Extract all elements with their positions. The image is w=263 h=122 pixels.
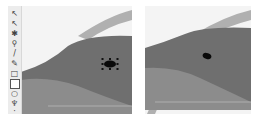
canvas-before[interactable]: ↖ ↖ ✱ ⚲ / ✎ □ ○ ♆ ·	[8, 6, 132, 114]
tools-panel: ↖ ↖ ✱ ⚲ / ✎ □ ○ ♆ ·	[8, 6, 22, 114]
canvas-after[interactable]	[145, 6, 251, 114]
direct-selection-tool-icon[interactable]: ↖	[10, 19, 19, 28]
pencil-tool-icon[interactable]: ✎	[10, 59, 19, 68]
pen-tool-icon[interactable]: /	[10, 49, 19, 58]
zoom-tool-icon[interactable]: ⚲	[10, 39, 19, 48]
magic-wand-tool-icon[interactable]: ✱	[10, 29, 19, 38]
dolphin-artwork	[8, 6, 132, 114]
eye-ellipse	[104, 60, 116, 67]
selection-tool-icon[interactable]: ↖	[10, 9, 19, 18]
rectangle-tool-icon[interactable]: □	[10, 69, 19, 78]
dolphin-artwork	[145, 6, 251, 114]
polygon-tool-icon[interactable]: ○	[10, 89, 19, 98]
ellipse-tool-icon[interactable]	[10, 79, 20, 89]
more-tools-icon[interactable]: ·	[10, 107, 19, 114]
